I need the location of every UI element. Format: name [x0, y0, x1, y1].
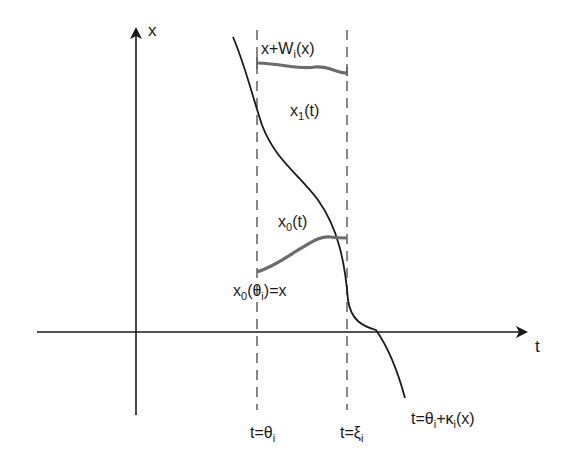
x0-label: x0(t) [278, 213, 307, 233]
theta-marker-label: t=θi [250, 424, 275, 444]
x1-label: x1(t) [290, 102, 319, 122]
x1-curve [257, 63, 347, 73]
t-axis-label: t [535, 337, 540, 356]
boundary-curve [233, 37, 405, 398]
upper-start-label: x+Wi(x) [261, 40, 315, 60]
lower-start-label: x0(θi)=x [233, 282, 286, 302]
crossing-marker-label: t=θi+κi(x) [411, 410, 475, 430]
x0-curve [257, 237, 347, 272]
diagram-canvas: x t x+Wi(x) x1(t) x0(t) x0(θi)=x t=θi t=… [0, 0, 569, 469]
x-axis-label: x [148, 21, 157, 40]
xi-marker-label: t=ξi [340, 424, 363, 444]
